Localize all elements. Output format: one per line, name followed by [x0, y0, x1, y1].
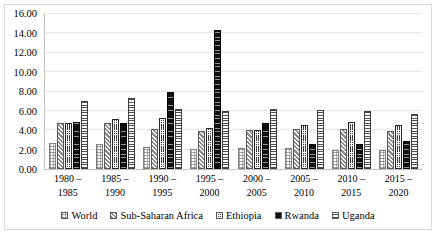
y-tick-label: 14.00 [13, 28, 37, 39]
plot-area [44, 14, 422, 170]
x-tick-label: 1995 –2000 [186, 172, 233, 204]
bar-group [186, 14, 233, 169]
bar-group [328, 14, 375, 169]
bar-eth[interactable] [206, 128, 213, 169]
bar-rwa[interactable] [167, 92, 174, 170]
bar-group [281, 14, 328, 169]
bar-eth[interactable] [301, 125, 308, 169]
y-tick-label: 12.00 [13, 48, 37, 59]
x-tick-label: 2000 –2005 [233, 172, 280, 204]
bar-ssa[interactable] [293, 129, 300, 169]
y-tick-label: 2.00 [19, 145, 37, 156]
legend-swatch-icon [275, 212, 282, 219]
bar-rwa[interactable] [309, 144, 316, 169]
bar-world[interactable] [190, 149, 197, 169]
legend-item[interactable]: Uganda [332, 210, 375, 221]
x-tick-label: 1990 –1995 [139, 172, 186, 204]
bar-chart: 16.0014.0012.0010.008.006.004.002.000.00… [0, 0, 436, 234]
bar-rwa[interactable] [73, 122, 80, 169]
legend-item[interactable]: Sub-Saharan Africa [110, 210, 203, 221]
bar-rwa[interactable] [262, 123, 269, 169]
bar-world[interactable] [285, 148, 292, 169]
bar-ssa[interactable] [104, 123, 111, 169]
bar-uga[interactable] [81, 101, 88, 169]
y-tick-label: 6.00 [19, 106, 37, 117]
bar-uga[interactable] [222, 111, 229, 169]
x-tick-label: 2005 –2010 [280, 172, 327, 204]
bar-ssa[interactable] [340, 129, 347, 169]
x-axis: 1980 –19851985 –19901990 –19951995 –2000… [44, 172, 422, 204]
bars-layer [45, 14, 422, 169]
bar-world[interactable] [379, 150, 386, 169]
bar-uga[interactable] [175, 109, 182, 169]
x-tick-label: 2015 –2020 [375, 172, 422, 204]
bar-group [375, 14, 422, 169]
bar-uga[interactable] [317, 110, 324, 169]
legend-label: World [71, 210, 97, 221]
bar-eth[interactable] [395, 125, 402, 169]
bar-group [139, 14, 186, 169]
bar-ssa[interactable] [151, 129, 158, 169]
bar-ssa[interactable] [57, 123, 64, 169]
bar-ssa[interactable] [198, 131, 205, 169]
x-tick-label: 1985 –1990 [91, 172, 138, 204]
y-tick-label: 4.00 [19, 126, 37, 137]
bar-uga[interactable] [364, 111, 371, 169]
bar-uga[interactable] [270, 109, 277, 169]
legend-swatch-icon [110, 212, 117, 219]
bar-ssa[interactable] [387, 131, 394, 169]
bar-uga[interactable] [128, 98, 135, 169]
y-tick-label: 8.00 [19, 87, 37, 98]
bar-eth[interactable] [65, 123, 72, 170]
bar-rwa[interactable] [403, 141, 410, 169]
bar-group [92, 14, 139, 169]
bar-world[interactable] [143, 147, 150, 169]
bar-ssa[interactable] [246, 130, 253, 169]
bar-world[interactable] [238, 148, 245, 169]
legend-label: Ethiopia [226, 210, 262, 221]
y-tick-label: 0.00 [19, 165, 37, 176]
legend-swatch-icon [61, 212, 68, 219]
legend-item[interactable]: Rwanda [275, 210, 319, 221]
legend-item[interactable]: World [61, 210, 97, 221]
bar-group [234, 14, 281, 169]
bar-eth[interactable] [254, 130, 261, 169]
legend-swatch-icon [216, 212, 223, 219]
bar-eth[interactable] [159, 118, 166, 169]
legend-label: Rwanda [285, 210, 319, 221]
plot-wrapper [44, 14, 422, 170]
x-tick-label: 1980 –1985 [44, 172, 91, 204]
legend-item[interactable]: Ethiopia [216, 210, 262, 221]
bar-uga[interactable] [411, 114, 418, 169]
bar-eth[interactable] [348, 122, 355, 169]
y-tick-label: 16.00 [13, 9, 37, 20]
legend-label: Sub-Saharan Africa [120, 210, 203, 221]
bar-rwa[interactable] [356, 144, 363, 169]
bar-rwa[interactable] [120, 123, 127, 169]
y-axis: 16.0014.0012.0010.008.006.004.002.000.00 [0, 14, 40, 170]
x-tick-label: 2010 –2015 [328, 172, 375, 204]
bar-eth[interactable] [112, 119, 119, 169]
bar-group [45, 14, 92, 169]
legend-label: Uganda [342, 210, 375, 221]
legend-swatch-icon [332, 212, 339, 219]
bar-rwa[interactable] [214, 30, 221, 169]
bar-world[interactable] [96, 144, 103, 169]
chart-legend: WorldSub-Saharan AfricaEthiopiaRwandaUga… [4, 206, 432, 224]
bar-world[interactable] [332, 150, 339, 169]
y-tick-label: 10.00 [13, 67, 37, 78]
bar-world[interactable] [49, 143, 56, 169]
